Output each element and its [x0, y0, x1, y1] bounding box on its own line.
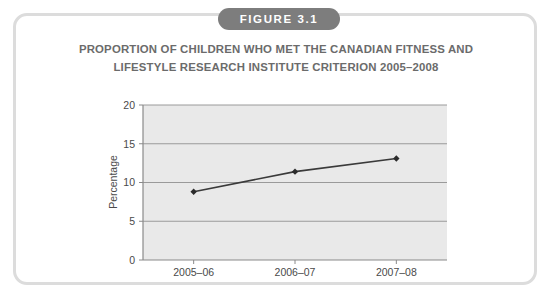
figure-number-badge: FIGURE 3.1 [218, 8, 340, 30]
chart-title-line-2: LIFESTYLE RESEARCH INSTITUTE CRITERION 2… [46, 58, 506, 76]
chart-title: PROPORTION OF CHILDREN WHO MET THE CANAD… [46, 40, 506, 76]
chart-title-line-1: PROPORTION OF CHILDREN WHO MET THE CANAD… [46, 40, 506, 58]
